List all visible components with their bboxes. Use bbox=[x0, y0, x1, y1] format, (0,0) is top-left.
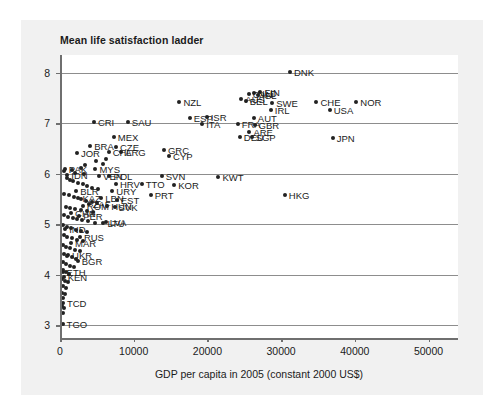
data-point[interactable] bbox=[66, 215, 70, 219]
data-point[interactable] bbox=[74, 228, 78, 232]
data-point[interactable] bbox=[252, 91, 256, 95]
data-point[interactable] bbox=[167, 154, 171, 158]
data-point[interactable] bbox=[76, 181, 80, 185]
data-point[interactable] bbox=[65, 225, 69, 229]
data-point[interactable] bbox=[110, 189, 114, 193]
data-point[interactable] bbox=[160, 174, 164, 178]
data-point[interactable] bbox=[75, 151, 79, 155]
data-point[interactable] bbox=[85, 184, 89, 188]
data-point[interactable] bbox=[75, 238, 79, 242]
data-point[interactable] bbox=[288, 70, 292, 74]
data-point[interactable] bbox=[216, 175, 220, 179]
data-point[interactable] bbox=[94, 159, 98, 163]
data-point[interactable] bbox=[244, 99, 248, 103]
data-point[interactable] bbox=[79, 229, 83, 233]
data-point[interactable] bbox=[79, 166, 83, 170]
data-point[interactable] bbox=[61, 296, 65, 300]
data-point[interactable] bbox=[92, 120, 96, 124]
data-point[interactable] bbox=[126, 120, 130, 124]
data-point[interactable] bbox=[70, 168, 74, 172]
data-point[interactable] bbox=[85, 209, 89, 213]
data-point[interactable] bbox=[140, 182, 144, 186]
data-point[interactable] bbox=[88, 144, 92, 148]
data-point[interactable] bbox=[78, 249, 82, 253]
data-point[interactable] bbox=[73, 171, 77, 175]
data-point[interactable] bbox=[74, 257, 78, 261]
data-point[interactable] bbox=[68, 206, 72, 210]
data-point[interactable] bbox=[172, 183, 176, 187]
data-point[interactable] bbox=[86, 219, 90, 223]
data-point[interactable] bbox=[73, 248, 77, 252]
data-point[interactable] bbox=[79, 208, 83, 212]
data-point[interactable] bbox=[81, 239, 85, 243]
data-point[interactable] bbox=[65, 235, 69, 239]
data-point[interactable] bbox=[93, 167, 97, 171]
data-point[interactable] bbox=[97, 174, 101, 178]
data-point[interactable] bbox=[200, 122, 204, 126]
data-point[interactable] bbox=[107, 174, 111, 178]
data-point[interactable] bbox=[81, 204, 85, 208]
data-point[interactable] bbox=[101, 162, 105, 166]
data-point[interactable] bbox=[70, 255, 74, 259]
data-point[interactable] bbox=[65, 254, 69, 258]
data-point[interactable] bbox=[83, 163, 87, 167]
data-point[interactable] bbox=[96, 187, 100, 191]
data-point[interactable] bbox=[62, 192, 66, 196]
data-point[interactable] bbox=[69, 226, 73, 230]
data-point[interactable] bbox=[270, 101, 274, 105]
data-point[interactable] bbox=[62, 169, 66, 173]
data-point[interactable] bbox=[74, 189, 78, 193]
data-point[interactable] bbox=[283, 193, 287, 197]
data-point[interactable] bbox=[205, 115, 209, 119]
data-point[interactable] bbox=[85, 230, 89, 234]
data-point[interactable] bbox=[82, 172, 86, 176]
data-point[interactable] bbox=[99, 196, 103, 200]
data-point[interactable] bbox=[328, 108, 332, 112]
data-point[interactable] bbox=[104, 157, 108, 161]
data-point[interactable] bbox=[81, 182, 85, 186]
data-point[interactable] bbox=[354, 100, 358, 104]
data-point[interactable] bbox=[84, 199, 88, 203]
data-point[interactable] bbox=[247, 130, 251, 134]
data-point[interactable] bbox=[66, 280, 70, 284]
data-point[interactable] bbox=[105, 204, 109, 208]
data-point[interactable] bbox=[113, 205, 117, 209]
data-point[interactable] bbox=[114, 182, 118, 186]
data-point[interactable] bbox=[256, 93, 260, 97]
data-point[interactable] bbox=[91, 210, 95, 214]
data-point[interactable] bbox=[67, 193, 71, 197]
data-point[interactable] bbox=[90, 186, 94, 190]
data-point[interactable] bbox=[80, 218, 84, 222]
data-point[interactable] bbox=[162, 148, 166, 152]
data-point[interactable] bbox=[119, 150, 123, 154]
data-point[interactable] bbox=[269, 108, 273, 112]
data-point[interactable] bbox=[67, 272, 71, 276]
data-point[interactable] bbox=[90, 200, 94, 204]
data-point[interactable] bbox=[64, 205, 68, 209]
data-point[interactable] bbox=[247, 92, 251, 96]
data-point[interactable] bbox=[71, 216, 75, 220]
data-point[interactable] bbox=[72, 265, 76, 269]
data-point[interactable] bbox=[72, 195, 76, 199]
data-point[interactable] bbox=[70, 236, 74, 240]
data-point[interactable] bbox=[79, 197, 83, 201]
data-point[interactable] bbox=[107, 150, 111, 154]
data-point[interactable] bbox=[68, 246, 72, 250]
data-point[interactable] bbox=[73, 207, 77, 211]
data-point[interactable] bbox=[115, 198, 119, 202]
data-point[interactable] bbox=[252, 116, 256, 120]
data-point[interactable] bbox=[75, 217, 79, 221]
data-point[interactable] bbox=[114, 145, 118, 149]
data-point[interactable] bbox=[71, 179, 75, 183]
data-point[interactable] bbox=[331, 136, 335, 140]
data-point[interactable] bbox=[238, 135, 242, 139]
data-point[interactable] bbox=[188, 116, 192, 120]
data-point[interactable] bbox=[239, 97, 243, 101]
data-point[interactable] bbox=[177, 100, 181, 104]
data-point[interactable] bbox=[250, 135, 254, 139]
data-point[interactable] bbox=[64, 286, 68, 290]
data-point[interactable] bbox=[95, 201, 99, 205]
data-point[interactable] bbox=[149, 193, 153, 197]
data-point[interactable] bbox=[236, 122, 240, 126]
data-point[interactable] bbox=[101, 221, 105, 225]
